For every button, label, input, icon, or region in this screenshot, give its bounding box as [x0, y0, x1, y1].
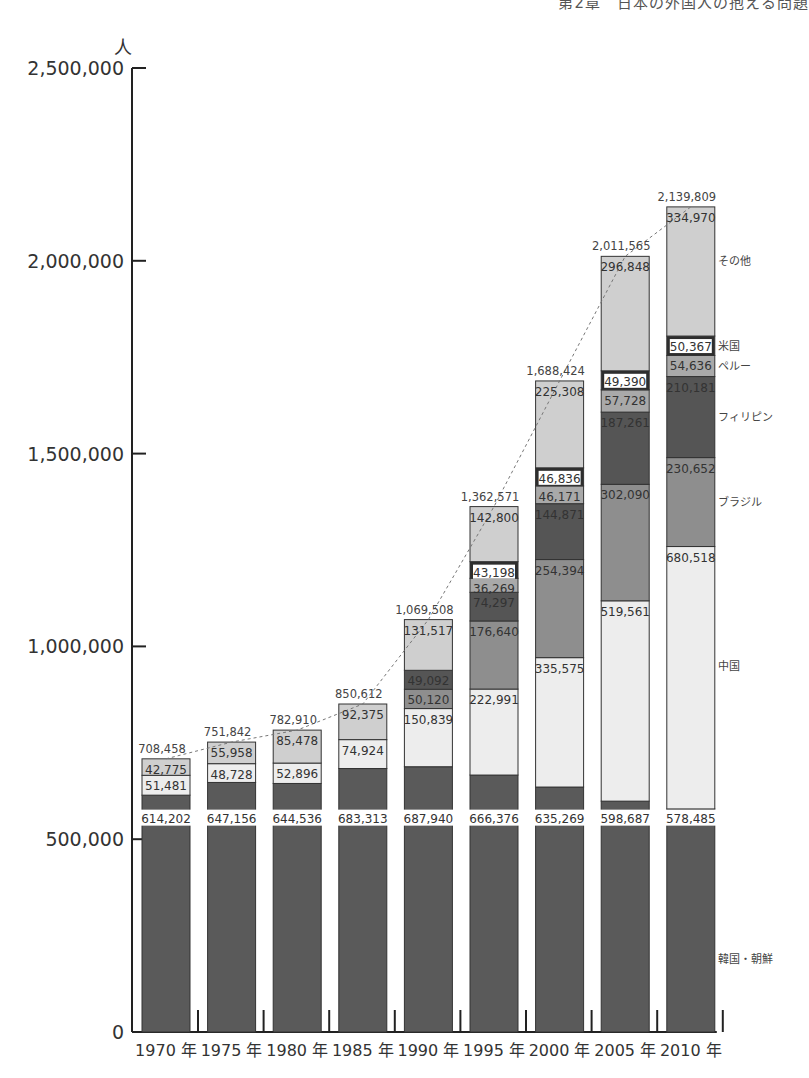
y-tick-label: 2,000,000: [27, 250, 124, 272]
total-value-label: 708,458: [138, 742, 186, 756]
segment-value-label: 578,485: [666, 812, 716, 826]
segment-value-label: 335,575: [535, 662, 585, 676]
segment-value-label: 142,800: [469, 511, 519, 525]
y-tick-label: 2,500,000: [27, 57, 124, 79]
x-tick-label: 2000 年: [529, 1041, 591, 1060]
total-value-label: 1,069,508: [395, 603, 454, 617]
segment-value-label: 647,156: [207, 812, 257, 826]
segment-value-label: 51,481: [145, 779, 187, 793]
segment-value-label: 230,652: [666, 462, 716, 476]
total-value-label: 2,139,809: [658, 190, 717, 204]
segment-value-label: 687,940: [404, 812, 454, 826]
segment-value-label: 46,171: [539, 490, 581, 504]
segment-value-label: 92,375: [342, 708, 384, 722]
segment-value-label: 54,636: [670, 359, 712, 373]
segment-value-label: 55,958: [211, 746, 253, 760]
legend: 韓国・朝鮮中国ブラジルフィリピンペルー米国その他: [718, 255, 773, 966]
segment-value-label: 48,728: [211, 768, 253, 782]
bar-segment: [339, 769, 387, 1032]
x-tick-label: 1985 年: [332, 1041, 394, 1060]
segment-value-label: 222,991: [469, 693, 519, 707]
segment-value-label: 50,120: [407, 693, 449, 707]
segment-value-label: 85,478: [276, 734, 318, 748]
segment-value-label: 50,367: [670, 340, 712, 354]
segment-value-label: 644,536: [272, 812, 322, 826]
segment-value-label: 176,640: [469, 625, 519, 639]
segment-value-label: 683,313: [338, 812, 388, 826]
segment-value-label: 36,269: [473, 582, 515, 596]
total-value-label: 1,688,424: [526, 364, 585, 378]
segment-value-label: 74,924: [342, 744, 384, 758]
legend-label: ブラジル: [718, 495, 762, 509]
segment-value-label: 187,261: [600, 416, 650, 430]
segment-value-label: 74,297: [473, 596, 515, 610]
x-tick-label: 2010 年: [660, 1041, 722, 1060]
total-value-label: 1,362,571: [461, 490, 520, 504]
segment-value-label: 49,390: [604, 375, 646, 389]
segment-value-label: 144,871: [535, 508, 585, 522]
x-tick-label: 1970 年: [135, 1041, 197, 1060]
total-value-label: 751,842: [204, 725, 252, 739]
y-tick-label: 500,000: [45, 828, 124, 850]
segment-value-label: 666,376: [469, 812, 519, 826]
segment-value-label: 598,687: [600, 812, 650, 826]
segment-value-label: 302,090: [600, 488, 650, 502]
bar-segment: [601, 801, 649, 1032]
segment-value-label: 635,269: [535, 812, 585, 826]
legend-label: その他: [718, 255, 751, 268]
bar-segment: [667, 809, 715, 1032]
legend-label: 中国: [718, 660, 740, 673]
segment-value-label: 225,308: [535, 385, 585, 399]
segment-value-label: 254,394: [535, 564, 585, 578]
segment-value-label: 614,202: [141, 812, 191, 826]
segment-value-label: 334,970: [666, 211, 716, 225]
segment-value-label: 131,517: [404, 624, 454, 638]
bar-segment: [142, 795, 190, 1032]
bar-segment: [667, 547, 715, 809]
bar-segment: [404, 767, 452, 1032]
segment-value-label: 680,518: [666, 551, 716, 565]
bar-segment: [601, 601, 649, 801]
total-value-label: 2,011,565: [592, 239, 651, 253]
segment-value-label: 296,848: [600, 260, 650, 274]
total-value-label: 850,612: [335, 687, 383, 701]
segment-value-label: 46,836: [539, 472, 581, 486]
bar-segment: [667, 207, 715, 336]
segment-value-label: 210,181: [666, 381, 716, 395]
legend-label: 米国: [718, 340, 740, 353]
segment-value-label: 42,775: [145, 763, 187, 777]
y-tick-label: 1,500,000: [27, 443, 124, 465]
bar-segment: [536, 658, 584, 787]
x-tick-label: 1990 年: [397, 1041, 459, 1060]
segment-value-label: 43,198: [473, 566, 515, 580]
segment-value-label: 49,092: [407, 674, 449, 688]
legend-label: フィリピン: [718, 411, 773, 424]
stacked-bar-chart: 0500,0001,000,0001,500,0002,000,0002,500…: [0, 0, 809, 1078]
total-value-label: 782,910: [269, 713, 317, 727]
segment-value-label: 150,839: [404, 713, 454, 727]
x-tick-label: 1980 年: [266, 1041, 328, 1060]
y-tick-label: 1,000,000: [27, 635, 124, 657]
segment-value-label: 57,728: [604, 394, 646, 408]
x-tick-label: 2005 年: [594, 1041, 656, 1060]
y-tick-label: 0: [112, 1021, 124, 1043]
segment-value-label: 52,896: [276, 767, 318, 781]
legend-label: ペルー: [718, 360, 751, 373]
x-tick-label: 1975 年: [201, 1041, 263, 1060]
segment-value-label: 519,561: [600, 605, 650, 619]
legend-label: 韓国・朝鮮: [718, 952, 773, 966]
y-unit-label: 人: [114, 37, 132, 58]
x-tick-label: 1995 年: [463, 1041, 525, 1060]
